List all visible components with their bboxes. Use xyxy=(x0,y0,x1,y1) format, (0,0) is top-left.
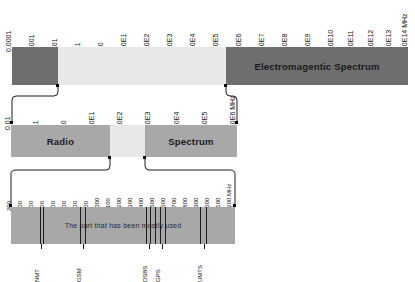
electromagnetic-spectrum-label: Electromagentic Spectrum xyxy=(226,47,408,85)
service-label-dsbs: DSBS xyxy=(142,266,148,282)
top-bar-segment-left-dark xyxy=(12,47,58,85)
marker-line-2 xyxy=(80,207,81,244)
radio-bar-segment: Radio xyxy=(11,125,110,157)
cap-bot-left xyxy=(9,204,12,207)
cap-mid-left xyxy=(10,121,13,124)
service-tick-gsm xyxy=(83,244,84,249)
top-bar-segment-right-dark: Electromagentic Spectrum xyxy=(226,47,408,85)
marker-line-5 xyxy=(150,207,151,244)
service-tick-gps xyxy=(162,244,163,249)
cap-top-left xyxy=(56,84,59,87)
service-label-gps: GPS xyxy=(155,269,161,282)
marker-line-4 xyxy=(146,207,147,244)
marker-line-7 xyxy=(160,207,161,244)
marker-line-3 xyxy=(85,207,86,244)
cap-mid-right xyxy=(235,121,238,124)
spectrum-bar-segment: Spectrum xyxy=(145,125,237,157)
marker-line-0 xyxy=(40,207,41,244)
connector-mid-right xyxy=(145,157,235,205)
cap-top-right xyxy=(224,84,227,87)
service-label-umts: UMTS xyxy=(197,265,203,282)
spectrum-label: Spectrum xyxy=(145,125,237,157)
radio-label: Radio xyxy=(11,125,110,157)
marker-line-9 xyxy=(200,207,201,244)
cap-hl-right xyxy=(143,156,146,159)
marker-line-8 xyxy=(165,207,166,244)
marker-line-6 xyxy=(155,207,156,244)
service-label-gsm: GSM xyxy=(76,268,82,282)
service-tick-nmt xyxy=(41,244,42,249)
cap-bot-right xyxy=(233,204,236,207)
mid-bar-highlight-segment xyxy=(110,125,145,157)
marker-line-1 xyxy=(43,207,44,244)
connector-top-left xyxy=(12,85,58,122)
top-bar-segment-radio-highlight xyxy=(58,47,226,85)
marker-line-10 xyxy=(206,207,207,244)
service-tick-dsbs xyxy=(149,244,150,249)
used-band-bar: The part that has been mostly used xyxy=(11,207,235,244)
cap-hl-left xyxy=(108,156,111,159)
used-band-label: The part that has been mostly used xyxy=(11,207,235,244)
top-tick-0: 0.0001 xyxy=(5,31,12,52)
service-label-nmt: NMT xyxy=(34,269,40,282)
service-tick-umts xyxy=(204,244,205,249)
